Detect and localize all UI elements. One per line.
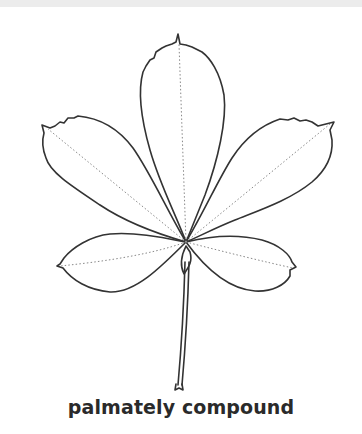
leaflet-lower-right <box>186 236 296 291</box>
vein-top <box>179 44 186 242</box>
vein-upper-left <box>48 129 186 242</box>
petiole-base <box>175 384 183 390</box>
leaflet-upper-left <box>42 116 186 242</box>
leaflet-upper-right <box>186 118 334 242</box>
leaflet-lower-left <box>57 234 186 292</box>
palmately-compound-leaf-illustration <box>0 0 362 434</box>
figure-caption: palmately compound <box>0 396 362 418</box>
vein-upper-right <box>186 124 330 242</box>
petiole <box>178 262 189 385</box>
